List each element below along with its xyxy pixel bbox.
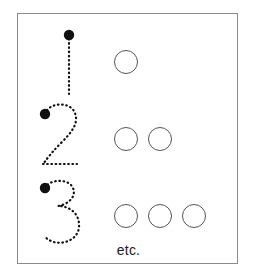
count-circle[interactable] (114, 127, 138, 151)
worksheet-frame: etc. (17, 13, 238, 264)
etc-label: etc. (18, 242, 239, 258)
start-dot (64, 30, 74, 40)
dotted-numeral-one[interactable] (36, 22, 106, 102)
worksheet-row (18, 22, 239, 102)
circle-group-row-2 (114, 99, 172, 179)
count-circle[interactable] (114, 204, 138, 228)
count-circle[interactable] (114, 50, 138, 74)
start-dot (40, 109, 50, 119)
count-circle[interactable] (182, 204, 206, 228)
start-dot (40, 183, 50, 193)
circle-group-row-1 (114, 22, 138, 102)
count-circle[interactable] (148, 127, 172, 151)
dotted-numeral-two[interactable] (36, 99, 106, 179)
count-circle[interactable] (148, 204, 172, 228)
worksheet-row (18, 99, 239, 179)
worksheet-page: etc. (0, 0, 254, 278)
